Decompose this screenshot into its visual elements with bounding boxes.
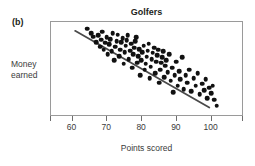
- scatter-point: [115, 33, 120, 38]
- x-axis-tick-label: 80: [136, 122, 145, 132]
- scatter-point: [134, 35, 139, 40]
- scatter-point: [141, 43, 146, 48]
- scatter-point: [149, 64, 154, 69]
- scatter-point: [138, 73, 143, 78]
- x-axis-label: Points scored: [50, 143, 243, 153]
- scatter-point: [183, 73, 188, 78]
- scatter-point: [126, 33, 131, 38]
- scatter-point: [168, 79, 173, 84]
- scatter-point: [155, 53, 160, 58]
- scatter-point: [123, 43, 128, 48]
- scatter-point: [131, 52, 136, 57]
- scatter-point: [147, 76, 152, 81]
- x-axis-tick: [141, 116, 142, 121]
- scatter-point: [209, 91, 214, 96]
- scatter-point: [161, 49, 166, 54]
- scatter-point: [171, 90, 176, 95]
- scatter-point: [164, 58, 169, 63]
- scatter-point: [100, 29, 105, 34]
- y-axis-label-line-1: Money: [11, 59, 51, 70]
- scatter-point: [170, 65, 175, 70]
- scatter-point: [121, 62, 126, 67]
- scatter-point: [133, 39, 138, 44]
- scatter-point: [202, 88, 207, 93]
- scatter-point: [145, 48, 150, 53]
- scatter-point: [212, 98, 217, 103]
- scatter-point: [132, 45, 137, 50]
- scatter-point: [127, 57, 132, 62]
- scatter-point: [180, 55, 185, 60]
- scatter-point: [142, 67, 147, 72]
- scatter-point: [174, 60, 179, 65]
- scatter-point: [144, 54, 149, 59]
- scatter-point: [94, 40, 99, 45]
- scatter-point: [153, 71, 158, 76]
- scatter-point: [167, 52, 172, 57]
- scatter-point: [146, 42, 151, 47]
- plot-area: [50, 21, 243, 116]
- scatter-point: [130, 65, 135, 70]
- scatter-point: [182, 87, 187, 92]
- scatter-point: [205, 96, 210, 101]
- scatter-point: [214, 103, 219, 108]
- x-axis-tick: [72, 116, 73, 121]
- scatter-point: [158, 67, 163, 72]
- scatter-point: [193, 83, 198, 88]
- scatter-point: [156, 47, 161, 52]
- figure-panel: (b) Golfers Money earned 60708090100 Poi…: [0, 0, 255, 166]
- x-axis-tick-label: 60: [67, 122, 76, 132]
- scatter-point: [173, 73, 178, 78]
- panel-label: (b): [12, 17, 24, 27]
- y-axis-label: Money earned: [11, 59, 51, 81]
- scatter-point: [195, 71, 200, 76]
- scatter-point: [187, 67, 192, 72]
- scatter-point: [175, 83, 180, 88]
- scatter-point: [163, 63, 168, 68]
- scatter-point: [112, 58, 117, 63]
- scatter-point: [110, 49, 115, 54]
- x-axis-tick-label: 70: [102, 122, 111, 132]
- scatter-point: [177, 69, 182, 74]
- scatter-point: [102, 47, 107, 52]
- scatter-point: [210, 83, 215, 88]
- x-axis-end-tick: [242, 116, 243, 121]
- scatter-point: [162, 75, 167, 80]
- scatter-point: [189, 89, 194, 94]
- scatter-point: [107, 42, 112, 47]
- scatter-point: [200, 81, 205, 86]
- scatter-point: [166, 70, 171, 75]
- scatter-point: [185, 81, 190, 86]
- scatter-point: [85, 26, 90, 31]
- x-axis-tick-label: 100: [204, 122, 218, 132]
- x-axis-tick: [106, 116, 107, 121]
- scatter-point: [157, 81, 162, 86]
- scatter-point: [154, 60, 159, 65]
- x-axis-tick-label: 90: [171, 122, 180, 132]
- y-axis-label-line-2: earned: [11, 70, 51, 81]
- scatter-point: [198, 92, 203, 97]
- scatter-point: [140, 50, 145, 55]
- scatter-point: [178, 77, 183, 82]
- x-axis-end-tick: [50, 116, 51, 121]
- chart-title: Golfers: [50, 7, 243, 17]
- scatter-point: [108, 37, 113, 42]
- x-axis-tick: [211, 116, 212, 121]
- scatter-point: [143, 62, 148, 67]
- scatter-point: [191, 76, 196, 81]
- scatter-point: [122, 50, 127, 55]
- x-axis: 60708090100: [50, 116, 243, 142]
- scatter-point: [203, 77, 208, 82]
- x-axis-tick: [176, 116, 177, 121]
- scatter-point: [117, 54, 122, 59]
